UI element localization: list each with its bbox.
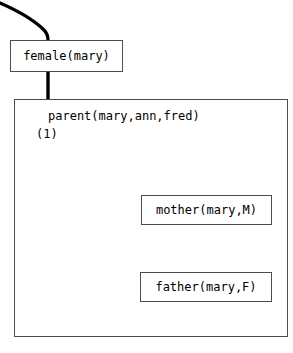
goal-node-father[interactable]: father(mary,F) — [140, 272, 272, 302]
parent-goal-label: parent(mary,ann,fred) — [48, 109, 200, 123]
goal-node-female[interactable]: female(mary) — [10, 40, 123, 72]
diagram-canvas: female(mary) parent(mary,ann,fred) (1) m… — [0, 0, 293, 353]
clause-index-label: (1) — [36, 127, 58, 141]
goal-node-mother[interactable]: mother(mary,M) — [141, 195, 272, 225]
incoming-edge-curve — [0, 3, 48, 40]
